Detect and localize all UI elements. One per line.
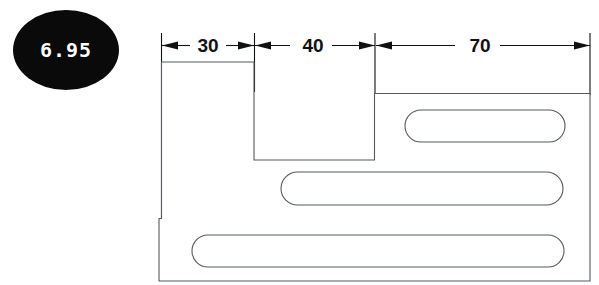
dimension-30: 30: [162, 35, 254, 56]
dimension-70: 70: [376, 35, 590, 56]
arrowhead-right-70-icon: [574, 42, 590, 50]
arrowhead-left-40-icon: [255, 42, 271, 50]
dimension-40-label: 40: [302, 35, 323, 56]
dimension-30-label: 30: [197, 35, 218, 56]
arrowhead-left-30-icon: [162, 42, 178, 50]
value-badge: 6.95: [13, 10, 119, 90]
arrowhead-right-40-icon: [359, 42, 375, 50]
technical-drawing-canvas: 6.95 30 40: [0, 0, 599, 285]
dimension-70-label: 70: [469, 35, 490, 56]
drawing-svg: 6.95 30 40: [0, 0, 599, 285]
badge-label: 6.95: [40, 38, 92, 62]
dimension-40: 40: [255, 35, 375, 56]
arrowhead-right-30-icon: [238, 42, 254, 50]
arrowhead-left-70-icon: [376, 42, 392, 50]
